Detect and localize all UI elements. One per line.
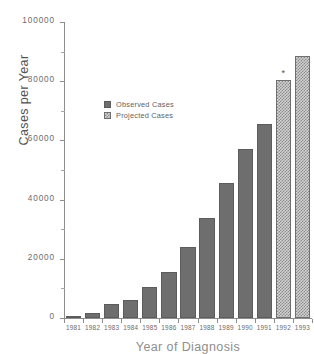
legend-item-label: Observed Cases <box>116 100 174 109</box>
x-axis-tick <box>217 319 218 323</box>
y-axis-tick-major: 40000 <box>60 200 65 201</box>
x-axis-tick <box>274 319 275 323</box>
x-axis-tick <box>102 319 103 323</box>
x-axis-tick <box>312 319 313 323</box>
bar-1988 <box>199 218 214 318</box>
bar-1990 <box>238 149 253 318</box>
legend-item-label: Projected Cases <box>116 111 173 120</box>
y-axis-tick-label: 0 <box>50 312 55 321</box>
bar-1992 <box>276 80 291 318</box>
legend: Observed CasesProjected Cases <box>104 99 174 121</box>
x-axis-tick <box>178 319 179 323</box>
y-axis-tick-major: 60000 <box>60 140 65 141</box>
asterisk-annotation: * <box>281 69 285 78</box>
x-axis-tick <box>293 319 294 323</box>
x-axis-title: Year of Diagnosis <box>64 340 312 354</box>
x-axis-tick-label: 1990 <box>238 324 253 331</box>
x-axis-tick-label: 1982 <box>85 324 100 331</box>
x-axis-tick-label: 1983 <box>104 324 119 331</box>
x-axis-tick <box>64 319 65 323</box>
x-axis-tick-label: 1991 <box>257 324 272 331</box>
x-axis-tick-label: 1981 <box>66 324 81 331</box>
x-axis-tick <box>140 319 141 323</box>
legend-item: Projected Cases <box>104 110 174 121</box>
bar-1991 <box>257 124 272 318</box>
x-axis-tick-label: 1992 <box>276 324 291 331</box>
y-axis-tick-minor <box>61 170 65 171</box>
x-axis-tick-label: 1986 <box>161 324 176 331</box>
y-axis-tick-minor <box>61 288 65 289</box>
y-axis-tick-major: 100000 <box>60 22 65 23</box>
x-axis-tick-label: 1993 <box>295 324 310 331</box>
y-axis-tick-minor <box>61 229 65 230</box>
bar-1984 <box>123 300 138 318</box>
y-axis-tick-label: 80000 <box>28 75 55 84</box>
bar-1987 <box>180 247 195 318</box>
x-axis-tick-label: 1984 <box>123 324 138 331</box>
x-axis-tick <box>159 319 160 323</box>
x-axis-tick <box>236 319 237 323</box>
x-axis-tick <box>121 319 122 323</box>
bar-1986 <box>161 272 176 318</box>
y-axis-tick-minor <box>61 52 65 53</box>
plot-area: 020000400006000080000100000 198119821983… <box>64 22 312 318</box>
y-axis-tick-minor <box>61 111 65 112</box>
bar-1983 <box>104 304 119 318</box>
legend-item: Observed Cases <box>104 99 174 110</box>
x-axis-tick-label: 1987 <box>180 324 195 331</box>
y-axis-tick-label: 60000 <box>28 134 55 143</box>
y-axis-tick-major: 80000 <box>60 81 65 82</box>
x-axis-tick <box>255 319 256 323</box>
bar-1981 <box>66 316 81 318</box>
hatched-gray-square-icon <box>104 112 111 119</box>
x-axis-tick-label: 1989 <box>219 324 234 331</box>
y-axis-title: Cases per Year <box>14 10 34 190</box>
x-axis-tick <box>198 319 199 323</box>
y-axis-tick-label: 100000 <box>22 16 55 25</box>
y-axis-tick-label: 20000 <box>28 253 55 262</box>
bar-1982 <box>85 313 100 318</box>
solid-gray-square-icon <box>104 101 111 108</box>
y-axis-tick-label: 40000 <box>28 194 55 203</box>
bar-1989 <box>219 183 234 318</box>
bar-1993 <box>295 56 310 318</box>
x-axis-tick-label: 1988 <box>199 324 214 331</box>
x-axis-tick <box>83 319 84 323</box>
y-axis-tick-major: 20000 <box>60 259 65 260</box>
bar-1985 <box>142 287 157 318</box>
x-axis-tick-label: 1985 <box>142 324 157 331</box>
